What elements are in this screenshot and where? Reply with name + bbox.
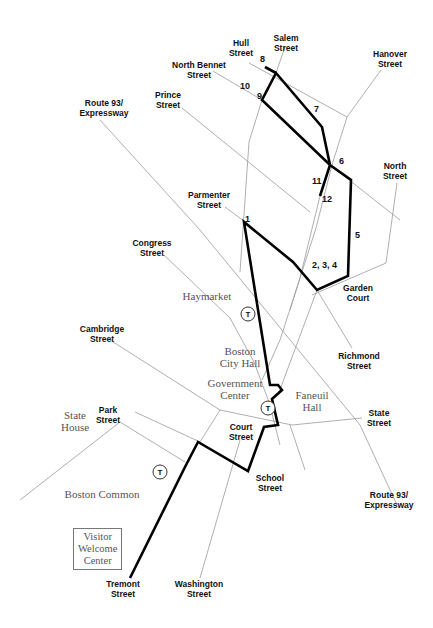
stop-10: 10 xyxy=(240,81,250,91)
label-route-93-south: Route 93/ Expressway xyxy=(364,490,413,510)
label-washington-street: Washington Street xyxy=(175,579,223,599)
label-tremont-street: Tremont Street xyxy=(106,579,140,599)
stop-11: 11 xyxy=(312,176,322,186)
stop-7: 7 xyxy=(314,104,319,114)
label-park-street: Park Street xyxy=(96,405,120,425)
street-network xyxy=(0,0,433,628)
t-stop-haymarket-icon: T xyxy=(241,307,256,322)
label-garden-court: Garden Court xyxy=(343,283,373,303)
route-stub-hull xyxy=(265,67,276,73)
t-stop-government-center-icon: T xyxy=(261,401,276,416)
place-boston-city-hall: Boston City Hall xyxy=(220,345,261,369)
stop-6: 6 xyxy=(339,156,344,166)
place-faneuil-hall: Faneuil Hall xyxy=(296,389,329,413)
label-state-street: State Street xyxy=(367,408,391,428)
label-cambridge-street: Cambridge Street xyxy=(80,324,124,344)
hanover-lower-line xyxy=(262,196,320,380)
label-hanover-street: Hanover Street xyxy=(373,49,407,69)
union-street-line xyxy=(278,290,317,395)
label-parmenter-street: Parmenter Street xyxy=(188,190,230,210)
tremont-upper-line xyxy=(135,410,220,442)
place-state-house: State House xyxy=(61,409,89,433)
congress-lower-line xyxy=(290,425,305,470)
label-route-93-north: Route 93/ Expressway xyxy=(79,98,128,118)
stop-5: 5 xyxy=(355,230,360,240)
label-richmond-street: Richmond Street xyxy=(338,351,380,371)
place-government-center: Government Center xyxy=(208,377,263,401)
stop-1: 1 xyxy=(245,214,250,224)
place-boston-common: Boston Common xyxy=(65,488,140,500)
freedom-trail-route xyxy=(130,73,351,578)
label-hull-street: Hull Street xyxy=(229,38,253,58)
washington-street-line xyxy=(200,440,240,578)
state-street-line xyxy=(292,418,362,425)
label-north-bennet-street: North Bennet Street xyxy=(172,60,226,80)
stop-2-3-4: 2, 3, 4 xyxy=(312,260,337,270)
label-north-street: North Street xyxy=(383,161,407,181)
label-congress-street: Congress Street xyxy=(132,238,171,258)
hull-street-line xyxy=(249,63,347,117)
label-prince-street: Prince Street xyxy=(155,90,181,110)
stop-12: 12 xyxy=(322,194,332,204)
label-school-street: School Street xyxy=(256,473,284,493)
label-court-street: Court Street xyxy=(229,422,253,442)
stop-8: 8 xyxy=(260,54,265,64)
visitor-welcome-center: Visitor Welcome Center xyxy=(73,528,122,570)
t-stop-park-street-icon: T xyxy=(153,465,168,480)
stop-9: 9 xyxy=(257,91,262,101)
north-end-connector-line xyxy=(240,100,262,272)
map-canvas: Hull Street Salem Street North Bennet St… xyxy=(0,0,433,628)
park-street-line xyxy=(120,422,185,462)
label-salem-street: Salem Street xyxy=(273,33,298,53)
place-haymarket: Haymarket xyxy=(183,290,232,302)
